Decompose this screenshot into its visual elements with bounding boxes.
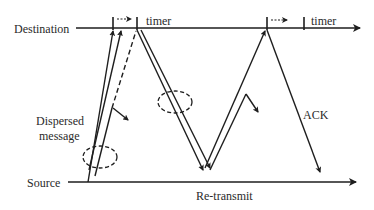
ack-label: ACK: [303, 108, 329, 122]
source-label: Source: [27, 176, 60, 190]
destination-label: Destination: [14, 22, 69, 36]
timer-1-label: timer: [146, 14, 171, 28]
dispersed-message-arrows: [88, 31, 136, 182]
dispersed-label-line2: message: [39, 129, 80, 143]
timer-2-label: timer: [311, 14, 336, 28]
return-arrows-1: [137, 30, 210, 170]
retransmit-arrows: [205, 31, 265, 170]
retransmit-label: Re-transmit: [196, 189, 253, 203]
protocol-timing-diagram: Destination Source timer timer Dispersed…: [0, 0, 374, 210]
dispersed-label-line1: Dispersed: [36, 114, 84, 128]
ack-arrow: [267, 30, 320, 172]
